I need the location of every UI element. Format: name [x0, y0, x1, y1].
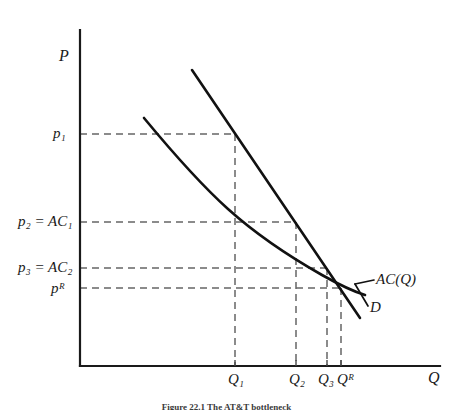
curve-label-demand: D: [370, 300, 381, 315]
curve-label-average-cost: AC(Q): [376, 272, 416, 287]
quantity-label-Q3: Q₃: [318, 372, 334, 387]
quantity-label-Q2-text: Q₂: [289, 371, 305, 387]
curve-label-average-cost-text: AC(Q): [376, 271, 416, 287]
quantity-label-Q2: Q₂: [289, 372, 305, 387]
price-label-p2-text: p₂ = AC₁: [18, 213, 72, 229]
figure-caption: Figure 22.1 The AT&T bottleneck: [0, 402, 453, 410]
price-label-pR: pᴿ: [51, 281, 65, 296]
leader-line-ac: [355, 280, 374, 284]
figure-container: P Q p₁ p₂ = AC₁ p₃ = AC₂ pᴿ Q₁ Q₂ Q₃ Qᴿ …: [0, 0, 453, 410]
quantity-label-Q3-text: Q₃: [318, 371, 334, 387]
price-label-p1-text: p₁: [53, 125, 66, 141]
price-label-p3: p₃ = AC₂: [18, 260, 72, 275]
price-label-p2: p₂ = AC₁: [18, 214, 72, 229]
price-label-p3-text: p₃ = AC₂: [18, 259, 72, 275]
y-axis-label: P: [59, 48, 69, 64]
x-axis-label: Q: [428, 370, 440, 386]
quantity-label-QR-text: Qᴿ: [337, 371, 354, 387]
price-label-p1: p₁: [53, 126, 66, 141]
quantity-label-Q1: Q₁: [228, 372, 244, 387]
quantity-label-Q1-text: Q₁: [228, 371, 244, 387]
curve-label-demand-text: D: [370, 299, 381, 315]
quantity-label-QR: Qᴿ: [337, 372, 354, 387]
price-label-pR-text: pᴿ: [51, 280, 65, 296]
